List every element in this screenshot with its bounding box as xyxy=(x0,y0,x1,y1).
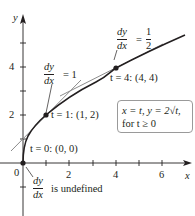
half-denominator: 2 xyxy=(146,41,151,52)
slope-fraction-half: dy dx xyxy=(117,27,127,51)
slope-equals: = xyxy=(136,35,142,46)
slope-numerator: dy xyxy=(44,62,54,73)
y-tick-label-4: 4 xyxy=(9,62,14,73)
point-t0 xyxy=(20,160,25,165)
leader-line-slope-half xyxy=(114,50,117,60)
slope-value-half: 1 2 xyxy=(146,27,151,51)
definition-line-2: for t ≥ 0 xyxy=(122,119,156,130)
slope-fraction-undefined: dy dx xyxy=(33,176,43,200)
x-tick-label-2: 2 xyxy=(66,170,71,181)
point-t1 xyxy=(43,112,48,117)
slope-fraction-1: dy dx xyxy=(44,62,54,86)
x-tick-label-4: 4 xyxy=(113,170,118,181)
y-axis-label: y xyxy=(13,13,18,24)
point-t4 xyxy=(113,65,118,70)
slope-denominator: dx xyxy=(117,41,127,52)
slope-denominator: dx xyxy=(33,190,43,201)
y-tick-label-2: 2 xyxy=(9,110,14,121)
slope-undefined-text: is undefined xyxy=(51,184,103,195)
point-label-t4: t = 4: (4, 4) xyxy=(110,73,158,84)
half-numerator: 1 xyxy=(146,27,151,38)
slope-value-1: = 1 xyxy=(63,70,77,81)
leader-line-undefined xyxy=(26,167,33,177)
slope-numerator: dy xyxy=(33,176,43,187)
point-label-t0: t = 0: (0, 0) xyxy=(30,144,78,155)
x-axis-label: x xyxy=(185,171,190,182)
slope-denominator: dx xyxy=(44,76,54,87)
definition-line-1: x = t, y = 2√t, xyxy=(122,106,181,117)
parametric-definition-box: x = t, y = 2√t, for t ≥ 0 xyxy=(117,100,193,133)
x-tick-label-6: 6 xyxy=(159,170,164,181)
point-label-t1: t = 1: (1, 2) xyxy=(51,110,99,121)
slope-numerator: dy xyxy=(117,27,127,38)
origin-label: 0 xyxy=(14,168,19,179)
